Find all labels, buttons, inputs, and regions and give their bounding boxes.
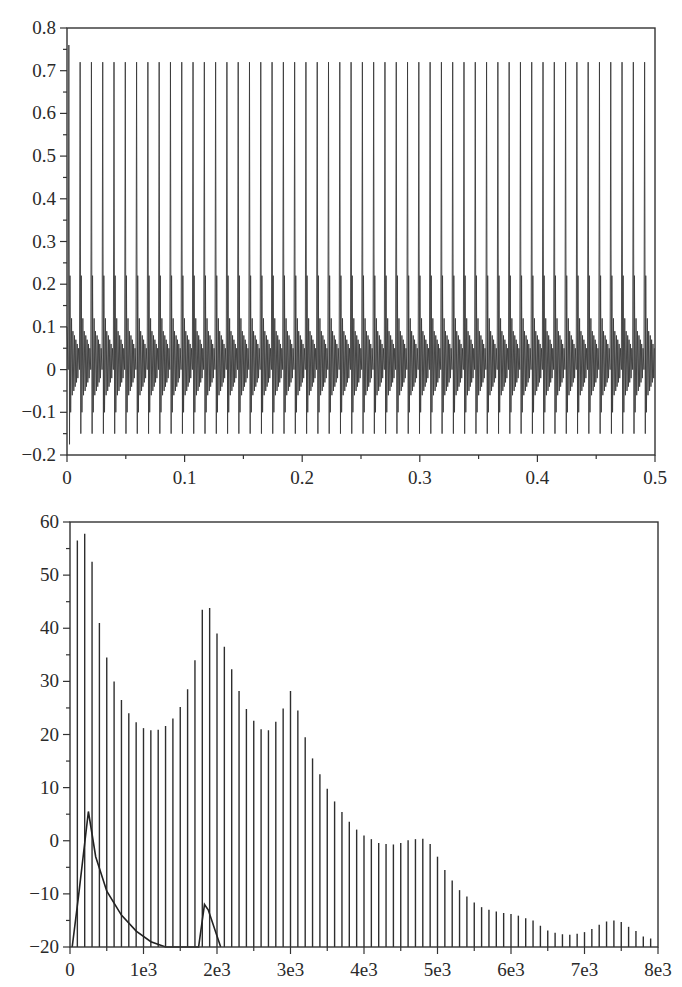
y-tick-label: 0.8 (32, 17, 56, 38)
y-tick-label: 0.6 (32, 102, 56, 123)
y-tick-label: −10 (29, 883, 59, 904)
x-tick-label: 6e3 (497, 959, 524, 980)
x-tick-label: 0 (65, 959, 75, 980)
y-tick-label: 0.2 (32, 273, 56, 294)
y-tick-label: −0.2 (22, 444, 56, 465)
x-tick-label: 0 (62, 467, 72, 488)
x-tick-label: 5e3 (424, 959, 451, 980)
y-tick-label: 10 (40, 777, 59, 798)
y-tick-label: 0.4 (32, 188, 56, 209)
y-tick-label: 0.7 (32, 60, 56, 81)
x-tick-label: 7e3 (571, 959, 598, 980)
y-tick-label: −0.1 (22, 401, 56, 422)
signal-waveform (67, 45, 654, 444)
y-axis: −20−100102030405060 (29, 511, 70, 957)
y-tick-label: 0.3 (32, 231, 56, 252)
x-axis: 01e32e33e34e35e36e37e38e3 (65, 947, 671, 980)
x-tick-label: 2e3 (203, 959, 230, 980)
harmonic-lines (77, 534, 650, 947)
y-tick-label: −20 (29, 936, 59, 957)
y-tick-label: 0.5 (32, 145, 56, 166)
x-tick-label: 0.2 (290, 467, 314, 488)
y-tick-label: 60 (40, 511, 59, 532)
envelope-curve (72, 812, 221, 948)
figure: −0.2−0.100.10.20.30.40.50.60.70.8 00.10.… (0, 0, 682, 987)
y-tick-label: 0.1 (32, 316, 56, 337)
y-tick-label: 30 (40, 670, 59, 691)
x-tick-label: 0.1 (173, 467, 197, 488)
y-tick-label: 50 (40, 564, 59, 585)
x-axis: 00.10.20.30.40.5 (62, 455, 667, 488)
y-axis: −0.2−0.100.10.20.30.40.50.60.70.8 (22, 17, 67, 465)
x-tick-label: 0.5 (643, 467, 667, 488)
x-tick-label: 4e3 (350, 959, 377, 980)
y-tick-label: 0 (47, 359, 57, 380)
y-tick-label: 0 (50, 830, 60, 851)
time-signal-chart: −0.2−0.100.10.20.30.40.50.60.70.8 00.10.… (22, 17, 667, 488)
x-tick-label: 1e3 (130, 959, 157, 980)
x-tick-label: 8e3 (644, 959, 671, 980)
y-tick-label: 40 (40, 617, 59, 638)
x-tick-label: 0.4 (526, 467, 550, 488)
y-tick-label: 20 (40, 724, 59, 745)
waveform-line (67, 45, 654, 444)
x-tick-label: 0.3 (408, 467, 432, 488)
x-tick-label: 3e3 (277, 959, 304, 980)
spectrum-chart: −20−100102030405060 01e32e33e34e35e36e37… (29, 511, 671, 980)
